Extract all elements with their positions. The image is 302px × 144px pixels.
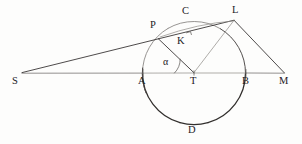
vertex-label-C: C [182, 6, 189, 17]
vertex-label-L: L [232, 5, 238, 16]
segment-P-L [159, 20, 235, 39]
angle-arc-alpha [175, 59, 181, 73]
segment-S-P [22, 39, 159, 73]
vertex-label-T: T [190, 76, 196, 87]
vertex-label-M: M [279, 76, 288, 87]
geometry-figure: S A T B M P C L K D α [0, 0, 302, 144]
vertex-label-P: P [150, 20, 156, 31]
vertex-label-A: A [138, 76, 146, 87]
vertex-label-K: K [177, 36, 185, 47]
vertex-label-D: D [188, 125, 196, 136]
circle-arc-lower-left [142, 73, 180, 123]
segment-L-M [234, 20, 284, 72]
circle-arc-upper-right [221, 29, 246, 73]
angle-label-alpha: α [163, 57, 168, 67]
circle-arc-lower-right [208, 73, 246, 123]
vertex-label-B: B [242, 76, 249, 87]
vertex-label-S: S [12, 76, 18, 87]
